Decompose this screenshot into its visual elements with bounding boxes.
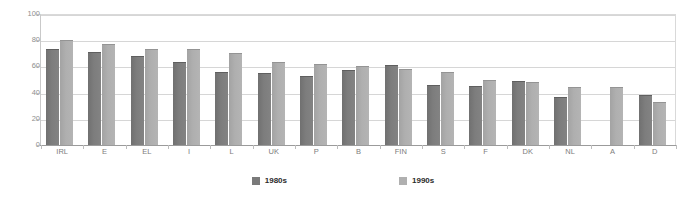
bar-chart: 100 80 60 40 20 0 IRLEELILUKPBFINSFDKNLA… xyxy=(0,0,686,207)
y-tick-mark-20 xyxy=(36,119,40,120)
bar-D-1980s xyxy=(639,95,652,145)
bar-group xyxy=(83,14,125,145)
y-tick-label-100: 100 xyxy=(6,10,40,18)
x-tick-mark-DK xyxy=(507,145,508,149)
bar-group xyxy=(337,14,379,145)
bar-group xyxy=(422,14,464,145)
x-tick-label-DK: DK xyxy=(507,148,549,156)
x-tick-mark-P xyxy=(295,145,296,149)
bar-group xyxy=(41,14,83,145)
x-tick-mark-B xyxy=(337,145,338,149)
legend-swatch-1980s-icon xyxy=(252,177,260,185)
chart-legend: 1980s 1990s xyxy=(0,177,686,185)
bar-IRL-1980s xyxy=(46,49,59,145)
legend-item-1990s: 1990s xyxy=(399,177,434,185)
x-tick-label-S: S xyxy=(422,148,464,156)
y-tick-mark-40 xyxy=(36,93,40,94)
bar-group xyxy=(295,14,337,145)
x-tick-label-D: D xyxy=(634,148,676,156)
x-tick-label-UK: UK xyxy=(253,148,295,156)
bar-group xyxy=(549,14,591,145)
x-tick-mark-A xyxy=(591,145,592,149)
bar-group xyxy=(210,14,252,145)
x-tick-mark-FIN xyxy=(380,145,381,149)
y-axis: 100 80 60 40 20 0 xyxy=(0,0,40,207)
bar-NL-1990s xyxy=(568,87,581,145)
y-tick-mark-80 xyxy=(36,40,40,41)
x-tick-label-B: B xyxy=(337,148,379,156)
x-tick-mark-end xyxy=(676,145,677,149)
y-tick-label-80: 80 xyxy=(6,36,40,44)
bar-group xyxy=(634,14,676,145)
bar-DK-1990s xyxy=(526,82,539,145)
bar-series-container xyxy=(41,14,676,145)
bar-IRL-1990s xyxy=(60,40,73,145)
bar-group xyxy=(591,14,633,145)
x-tick-mark-F xyxy=(464,145,465,149)
bar-group xyxy=(168,14,210,145)
bar-group xyxy=(464,14,506,145)
x-tick-label-F: F xyxy=(464,148,506,156)
x-tick-label-IRL: IRL xyxy=(41,148,83,156)
bar-FIN-1980s xyxy=(385,65,398,145)
bar-group xyxy=(126,14,168,145)
bar-F-1990s xyxy=(483,80,496,146)
bar-E-1980s xyxy=(88,52,101,145)
bar-I-1990s xyxy=(187,49,200,145)
x-tick-mark-NL xyxy=(549,145,550,149)
bar-B-1980s xyxy=(342,70,355,145)
x-tick-label-FIN: FIN xyxy=(380,148,422,156)
x-tick-label-P: P xyxy=(295,148,337,156)
bar-P-1980s xyxy=(300,76,313,145)
bar-E-1990s xyxy=(102,44,115,145)
bar-group xyxy=(507,14,549,145)
x-tick-label-I: I xyxy=(168,148,210,156)
bar-L-1990s xyxy=(229,53,242,145)
y-tick-mark-0 xyxy=(36,145,40,146)
x-tick-mark-D xyxy=(634,145,635,149)
y-tick-label-40: 40 xyxy=(6,89,40,97)
y-tick-label-0: 0 xyxy=(6,141,40,149)
bar-EL-1990s xyxy=(145,49,158,145)
bar-EL-1980s xyxy=(131,56,144,145)
y-tick-mark-100 xyxy=(36,14,40,15)
y-tick-label-20: 20 xyxy=(6,115,40,123)
bar-I-1980s xyxy=(173,62,186,145)
bar-group xyxy=(253,14,295,145)
legend-item-1980s: 1980s xyxy=(252,177,287,185)
y-tick-label-60: 60 xyxy=(6,63,40,71)
x-tick-mark-UK xyxy=(253,145,254,149)
x-tick-mark-S xyxy=(422,145,423,149)
x-axis-labels: IRLEELILUKPBFINSFDKNLAD xyxy=(41,148,676,162)
bar-D-1990s xyxy=(653,102,666,145)
bar-P-1990s xyxy=(314,64,327,145)
bar-UK-1980s xyxy=(258,73,271,145)
bar-B-1990s xyxy=(356,66,369,145)
legend-swatch-1990s-icon xyxy=(399,177,407,185)
x-tick-label-EL: EL xyxy=(126,148,168,156)
bar-F-1980s xyxy=(469,86,482,145)
bar-L-1980s xyxy=(215,72,228,145)
x-tick-mark-IRL xyxy=(41,145,42,149)
legend-label-1990s: 1990s xyxy=(412,177,434,185)
x-tick-label-NL: NL xyxy=(549,148,591,156)
bar-group xyxy=(380,14,422,145)
bar-S-1990s xyxy=(441,72,454,145)
y-tick-mark-60 xyxy=(36,66,40,67)
x-tick-label-L: L xyxy=(210,148,252,156)
x-tick-mark-E xyxy=(83,145,84,149)
x-tick-mark-I xyxy=(168,145,169,149)
legend-label-1980s: 1980s xyxy=(265,177,287,185)
x-tick-mark-L xyxy=(210,145,211,149)
bar-DK-1980s xyxy=(512,81,525,145)
x-tick-mark-EL xyxy=(126,145,127,149)
x-tick-label-E: E xyxy=(83,148,125,156)
bar-S-1980s xyxy=(427,85,440,145)
bar-NL-1980s xyxy=(554,97,567,145)
x-tick-label-A: A xyxy=(591,148,633,156)
x-axis-line xyxy=(40,145,677,146)
bar-UK-1990s xyxy=(272,62,285,145)
bar-A-1990s xyxy=(610,87,623,145)
bar-FIN-1990s xyxy=(399,69,412,145)
